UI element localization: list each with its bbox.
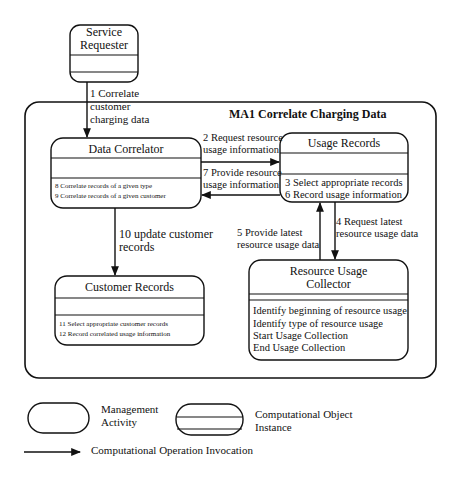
resource-usage-collector-op-3: Start Usage Collection bbox=[253, 330, 348, 341]
legend-management-activity-line2: Activity bbox=[101, 417, 137, 429]
invocation-1-label-line3: charging data bbox=[90, 114, 149, 126]
data-correlator-op-9: 9 Correlate records of a given customer bbox=[55, 193, 166, 200]
resource-usage-collector-name-line1: Resource Usage bbox=[249, 265, 408, 278]
resource-usage-collector-op-1: Identify beginning of resource usage bbox=[253, 305, 407, 316]
usage-records-name: Usage Records bbox=[280, 137, 408, 150]
customer-records-name: Customer Records bbox=[55, 281, 204, 294]
usage-records-op-3: 3 Select appropriate records bbox=[285, 177, 403, 188]
resource-usage-collector-op-2: Identify type of resource usage bbox=[253, 318, 383, 329]
resource-usage-collector-op-4: End Usage Collection bbox=[253, 342, 345, 353]
legend-operation-invocation: Computational Operation Invocation bbox=[91, 445, 253, 457]
usage-records-op-6: 6 Record usage information bbox=[285, 189, 402, 200]
legend-computational-object-shape bbox=[176, 404, 243, 435]
customer-records-op-12: 12 Record correlated usage information bbox=[59, 331, 170, 338]
legend-computational-object-line1: Computational Object bbox=[255, 409, 352, 421]
ma1-title: MA1 Correlate Charging Data bbox=[229, 108, 386, 121]
invocation-1-label-line2: customer bbox=[90, 101, 130, 113]
legend-management-activity-line1: Management bbox=[101, 404, 158, 416]
legend-management-activity-shape bbox=[28, 403, 89, 433]
invocation-7-label-line2: usage information bbox=[203, 179, 279, 190]
invocation-4-label-line2: resource usage data bbox=[336, 228, 418, 239]
customer-records-op-11: 11 Select appropriate customer records bbox=[59, 321, 168, 328]
invocation-1-label-line1: 1 Correlate bbox=[90, 88, 139, 100]
legend-computational-object-line2: Instance bbox=[255, 422, 292, 434]
invocation-10-label-line2: records bbox=[119, 241, 154, 254]
invocation-2-label-line1: 2 Request resource bbox=[203, 132, 283, 143]
resource-usage-collector-name-line2: Collector bbox=[249, 278, 408, 291]
data-correlator-op-8: 8 Correlate records of a given type bbox=[55, 183, 152, 190]
invocation-7-label-line1: 7 Provide resource bbox=[203, 167, 282, 178]
invocation-10-label-line1: 10 update customer bbox=[119, 228, 213, 241]
service-requester-name-line1: Service bbox=[70, 26, 138, 39]
invocation-4-label-line1: 4 Request latest bbox=[336, 216, 403, 227]
invocation-5-label-line2: resource usage data bbox=[237, 239, 319, 250]
service-requester-name-line2: Requester bbox=[70, 39, 138, 52]
invocation-2-label-line2: usage information bbox=[203, 144, 279, 155]
invocation-5-label-line1: 5 Provide latest bbox=[237, 227, 302, 238]
data-correlator-name: Data Correlator bbox=[51, 143, 201, 156]
